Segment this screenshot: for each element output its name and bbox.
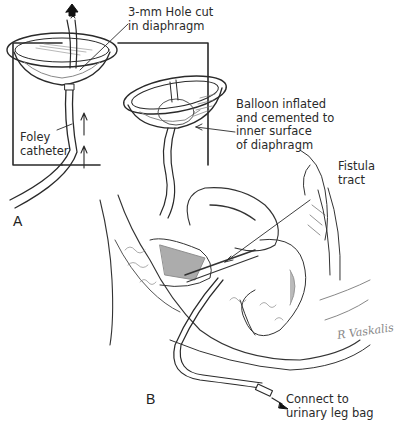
- balloon-callout: Balloon inflated and cemented to inner s…: [236, 98, 334, 152]
- connect-callout-line-1: Connect to: [286, 393, 374, 407]
- panel-label-a: A: [13, 213, 22, 229]
- foley-callout-line-1: Foley: [20, 131, 69, 145]
- fistula-callout-line-1: Fistula: [338, 160, 375, 174]
- hole-callout-line-2: in diaphragm: [128, 20, 213, 34]
- pelvic-cross-section: [100, 150, 370, 370]
- connect-callout: Connect to urinary leg bag: [286, 393, 374, 420]
- hole-callout: 3-mm Hole cut in diaphragm: [128, 6, 213, 33]
- fistula-callout: Fistula tract: [338, 160, 375, 187]
- diaphragm-with-balloon: [121, 69, 229, 218]
- catheter-to-leg-bag: [174, 278, 288, 409]
- illustration-artwork: [0, 0, 403, 425]
- balloon-callout-line-4: of diaphragm: [236, 139, 334, 153]
- balloon-callout-line-1: Balloon inflated: [236, 98, 334, 112]
- arrow-up-icon: [66, 4, 78, 16]
- diaphragm-with-hole: [7, 4, 117, 208]
- hole-callout-line-1: 3-mm Hole cut: [128, 6, 213, 20]
- panel-label-b: B: [146, 391, 155, 407]
- balloon-callout-line-3: inner surface: [236, 125, 334, 139]
- foley-callout-line-2: catheter: [20, 145, 69, 159]
- medical-illustration: 3-mm Hole cut in diaphragm Foley cathete…: [0, 0, 403, 425]
- connect-callout-line-2: urinary leg bag: [286, 407, 374, 421]
- balloon-callout-line-2: and cemented to: [236, 112, 334, 126]
- foley-callout: Foley catheter: [20, 131, 69, 158]
- fistula-callout-line-2: tract: [338, 174, 375, 188]
